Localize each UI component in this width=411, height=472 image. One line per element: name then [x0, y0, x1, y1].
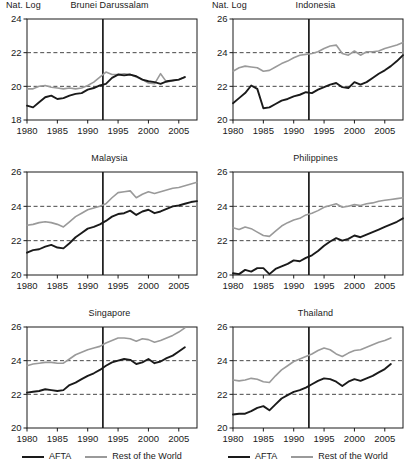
y-tick-label: 26	[11, 166, 22, 177]
y-tick-label: 26	[217, 321, 228, 332]
legend-right: AFTA Rest of the World	[228, 452, 388, 461]
x-tick-label: 1995	[314, 433, 335, 444]
y-tick-label: 22	[217, 389, 228, 400]
series-line-afta	[233, 218, 403, 274]
x-tick-label: 2005	[374, 433, 395, 444]
x-tick-label: 1995	[108, 280, 129, 291]
panel-indonesia: Nat. Log Indonesia 202224261980198519901…	[206, 0, 411, 150]
plot-svg: 18202224198019851990199520002005	[0, 0, 205, 150]
x-tick-label: 2000	[344, 125, 365, 136]
y-tick-label: 24	[11, 13, 22, 24]
x-tick-label: 1985	[47, 125, 68, 136]
series-line-afta	[27, 75, 185, 108]
plot-area: 20222426198019851990199520002005	[206, 153, 411, 305]
legend-label-rest-of-the-world: Rest of the World	[112, 452, 181, 461]
panel-singapore: Singapore 202224261980198519901995200020…	[0, 308, 205, 458]
legend-swatch-afta-icon	[22, 456, 44, 458]
series-line-afta	[233, 364, 391, 415]
x-tick-label: 2005	[168, 433, 189, 444]
y-tick-label: 24	[11, 355, 22, 366]
x-tick-label: 2005	[374, 280, 395, 291]
x-tick-label: 1985	[253, 125, 274, 136]
y-tick-label: 22	[11, 389, 22, 400]
x-tick-label: 1980	[16, 125, 37, 136]
panel-philippines: Philippines 2022242619801985199019952000…	[206, 153, 411, 305]
series-line-rest-of-the-world	[27, 182, 197, 227]
legend-swatch-rest-of-the-world-icon	[291, 456, 313, 458]
multi-panel-line-chart-figure: Nat. Log Brunei Darussalam 1820222419801…	[0, 0, 411, 472]
plot-frame	[233, 172, 403, 275]
x-tick-label: 1980	[222, 433, 243, 444]
legend-swatch-afta-icon	[228, 456, 250, 458]
plot-svg: 20222426198019851990199520002005	[0, 153, 205, 305]
x-tick-label: 1990	[77, 433, 98, 444]
series-line-afta	[27, 347, 185, 392]
plot-area: 20222426198019851990199520002005	[206, 0, 411, 150]
y-tick-label: 26	[217, 166, 228, 177]
x-tick-label: 1985	[47, 433, 68, 444]
x-tick-label: 1985	[253, 433, 274, 444]
x-tick-label: 1995	[314, 125, 335, 136]
y-tick-label: 24	[217, 47, 228, 58]
y-tick-label: 22	[217, 81, 228, 92]
x-tick-label: 1980	[16, 433, 37, 444]
y-tick-label: 22	[11, 235, 22, 246]
panel-brunei-darussalam: Nat. Log Brunei Darussalam 1820222419801…	[0, 0, 205, 150]
y-tick-label: 24	[217, 355, 228, 366]
x-tick-label: 1985	[47, 280, 68, 291]
plot-area: 20222426198019851990199520002005	[0, 308, 205, 458]
x-tick-label: 1990	[283, 125, 304, 136]
series-line-afta	[233, 55, 403, 108]
y-tick-label: 22	[11, 47, 22, 58]
legend-label-afta: AFTA	[49, 452, 71, 461]
legend-item-afta: AFTA	[228, 452, 277, 461]
x-tick-label: 2000	[344, 433, 365, 444]
series-line-rest-of-the-world	[27, 328, 185, 366]
legend-swatch-rest-of-the-world-icon	[85, 456, 107, 458]
y-tick-label: 20	[11, 269, 22, 280]
x-tick-label: 1980	[222, 280, 243, 291]
y-tick-label: 24	[11, 201, 22, 212]
y-tick-label: 20	[11, 422, 22, 433]
x-tick-label: 1990	[283, 433, 304, 444]
legend-label-rest-of-the-world: Rest of the World	[318, 452, 387, 461]
plot-svg: 20222426198019851990199520002005	[0, 308, 205, 458]
legend-item-rest-of-the-world: Rest of the World	[291, 452, 387, 461]
x-tick-label: 1995	[108, 125, 129, 136]
x-tick-label: 2005	[168, 125, 189, 136]
legend-item-afta: AFTA	[22, 452, 71, 461]
series-line-afta	[27, 201, 197, 253]
y-tick-label: 26	[11, 321, 22, 332]
y-tick-label: 20	[217, 422, 228, 433]
plot-svg: 20222426198019851990199520002005	[206, 0, 411, 150]
x-tick-label: 1985	[253, 280, 274, 291]
plot-svg: 20222426198019851990199520002005	[206, 153, 411, 305]
plot-frame	[233, 19, 403, 120]
plot-area: 20222426198019851990199520002005	[0, 153, 205, 305]
x-tick-label: 1995	[314, 280, 335, 291]
legend-item-rest-of-the-world: Rest of the World	[85, 452, 181, 461]
x-tick-label: 1980	[16, 280, 37, 291]
legend-label-afta: AFTA	[255, 452, 277, 461]
plot-frame	[27, 327, 197, 428]
plot-frame	[27, 19, 197, 120]
plot-area: 20222426198019851990199520002005	[206, 308, 411, 458]
y-tick-label: 20	[217, 114, 228, 125]
x-tick-label: 2000	[138, 433, 159, 444]
x-tick-label: 1990	[77, 125, 98, 136]
panel-thailand: Thailand 2022242619801985199019952000200…	[206, 308, 411, 458]
legend-left: AFTA Rest of the World	[22, 452, 182, 461]
x-tick-label: 1990	[283, 280, 304, 291]
x-tick-label: 2000	[344, 280, 365, 291]
y-tick-label: 26	[217, 13, 228, 24]
y-tick-label: 24	[217, 201, 228, 212]
x-tick-label: 1980	[222, 125, 243, 136]
y-tick-label: 20	[217, 269, 228, 280]
panel-malaysia: Malaysia 2022242619801985199019952000200…	[0, 153, 205, 305]
y-tick-label: 18	[11, 114, 22, 125]
y-tick-label: 20	[11, 81, 22, 92]
y-tick-label: 22	[217, 235, 228, 246]
series-line-rest-of-the-world	[233, 43, 403, 72]
plot-svg: 20222426198019851990199520002005	[206, 308, 411, 458]
x-tick-label: 1995	[108, 433, 129, 444]
